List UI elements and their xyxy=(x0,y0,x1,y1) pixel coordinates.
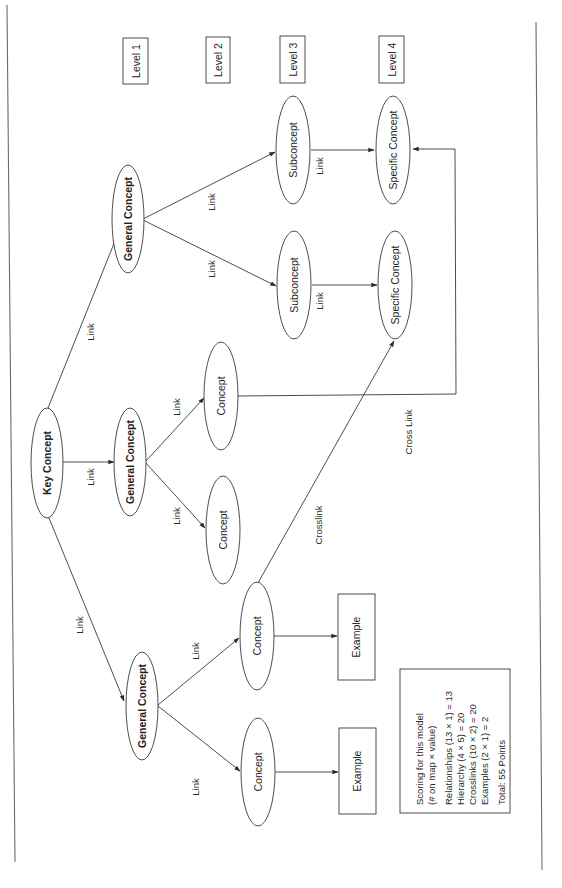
node-specific-concept-a-label: Specific Concept xyxy=(387,111,399,190)
node-subconcept-a: Subconcept xyxy=(276,96,310,204)
level-label-1: Level 1 xyxy=(130,44,142,78)
scoring-box: Scoring for this model (# on map × value… xyxy=(400,669,510,813)
node-concept-bottom-a: Concept xyxy=(240,582,274,690)
node-concept-mid-a-label: Concept xyxy=(215,376,227,415)
scoring-line-relationships: Relationships (13 × 1) = 13 xyxy=(443,691,454,805)
edge-key-to-general-top xyxy=(48,226,121,408)
concept-map-diagram: Link Link Link Link Link Link Link Link … xyxy=(0,0,562,888)
label-link-general-mid-a: Link xyxy=(171,398,182,416)
node-general-concept-top: General Concept xyxy=(112,165,144,273)
level-box-2: Level 2 xyxy=(206,37,230,83)
scoring-line-crosslinks: Crosslinks (10 × 2) = 20 xyxy=(467,704,478,805)
label-link-key-bottom: Link xyxy=(74,616,85,634)
node-subconcept-b-label: Subconcept xyxy=(288,257,300,313)
node-key-concept: Key Concept xyxy=(31,408,63,518)
label-crosslink: Crosslink xyxy=(313,505,324,544)
node-general-concept-bottom-label: General Concept xyxy=(136,663,148,748)
node-specific-concept-b: Specific Concept xyxy=(378,231,412,339)
level-label-3: Level 3 xyxy=(287,42,299,76)
example-box-b: Example xyxy=(339,728,376,814)
scoring-title-line1: Scoring for this model xyxy=(414,713,425,805)
label-link-general-bottom-b: Link xyxy=(190,778,201,796)
label-link-sub-b: Link xyxy=(314,292,325,310)
node-general-concept-bottom: General Concept xyxy=(126,652,158,760)
level-label-2: Level 2 xyxy=(212,43,224,77)
level-label-4: Level 4 xyxy=(386,42,398,76)
level-box-3: Level 3 xyxy=(280,36,305,83)
label-link-general-bottom-a: Link xyxy=(190,642,201,660)
level-box-1: Level 1 xyxy=(123,38,148,84)
node-specific-concept-a: Specific Concept xyxy=(376,96,410,204)
scoring-title-line2: (# on map × value) xyxy=(426,726,437,805)
example-box-b-label: Example xyxy=(351,750,363,791)
node-general-concept-mid: General Concept xyxy=(114,408,146,516)
edge-cross-link xyxy=(238,149,456,396)
scoring-total: Total: 55 Points xyxy=(496,740,507,805)
label-link-general-top-a: Link xyxy=(206,193,217,211)
node-subconcept-a-label: Subconcept xyxy=(287,122,299,178)
edge-key-to-general-bottom xyxy=(49,518,124,701)
label-link-sub-a: Link xyxy=(314,157,325,175)
label-link-general-mid-b: Link xyxy=(171,507,182,525)
node-concept-bottom-b: Concept xyxy=(241,718,275,826)
page-rule-right xyxy=(536,22,542,870)
level-box-4: Level 4 xyxy=(379,36,404,83)
edge-general-bottom-to-concept-b xyxy=(158,706,240,771)
scoring-line-hierarchy: Hierarchy (4 × 5) = 20 xyxy=(455,713,466,805)
node-concept-bottom-b-label: Concept xyxy=(252,752,264,791)
example-box-a-label: Example xyxy=(350,616,362,657)
node-subconcept-b: Subconcept xyxy=(277,231,311,339)
node-concept-mid-a: Concept xyxy=(204,342,238,450)
label-link-key-top: Link xyxy=(85,323,96,341)
node-key-concept-label: Key Concept xyxy=(41,430,53,495)
label-cross-link: Cross Link xyxy=(403,409,414,454)
label-link-general-top-b: Link xyxy=(206,260,217,278)
example-box-a: Example xyxy=(338,594,375,680)
node-concept-mid-b: Concept xyxy=(206,476,240,584)
node-specific-concept-b-label: Specific Concept xyxy=(389,246,401,325)
node-general-concept-top-label: General Concept xyxy=(122,176,134,261)
edge-crosslink-diagonal xyxy=(258,341,394,583)
page-rule-left xyxy=(7,5,15,862)
label-link-key-mid: Link xyxy=(85,468,96,486)
node-concept-mid-b-label: Concept xyxy=(217,510,229,549)
node-general-concept-mid-label: General Concept xyxy=(124,419,136,504)
node-concept-bottom-a-label: Concept xyxy=(251,616,263,655)
scoring-line-examples: Examples (2 × 1) = 2 xyxy=(479,717,490,805)
